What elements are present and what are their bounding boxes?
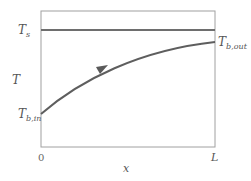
y-axis-label: T xyxy=(12,73,21,87)
inlet-temperature-label: Tb,in xyxy=(18,107,41,123)
heat-transfer-diagram: Ts T Tb,in Tb,out 0 L x xyxy=(0,0,251,181)
x-tick-L: L xyxy=(210,151,218,164)
bulk-temperature-curve xyxy=(41,42,215,114)
x-axis-label: x xyxy=(123,162,130,175)
outlet-temperature-label: Tb,out xyxy=(218,35,248,51)
surface-temperature-label: Ts xyxy=(18,23,30,39)
plot-frame xyxy=(41,11,215,147)
x-tick-0: 0 xyxy=(38,152,44,163)
